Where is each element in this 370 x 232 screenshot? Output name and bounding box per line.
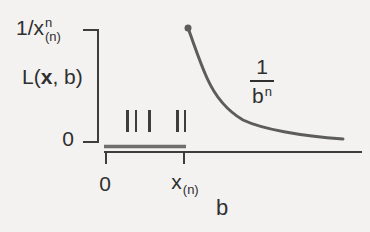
- x-axis-zero-label: 0: [93, 173, 117, 195]
- data-tick-mark: [148, 110, 151, 132]
- x-axis-title: b: [208, 196, 236, 219]
- fraction-numerator: 1: [250, 55, 274, 82]
- curve-annotation: 1 bn: [240, 55, 284, 108]
- x-axis-xn-label: x(n): [162, 171, 208, 197]
- fraction-den-sup: n: [265, 84, 272, 99]
- data-tick-mark: [126, 110, 129, 132]
- y-axis-max-sup: n: [45, 16, 52, 30]
- fraction-denominator: bn: [252, 82, 272, 108]
- xn-base: x: [171, 170, 182, 193]
- y-axis-max-base: 1/x: [16, 16, 44, 39]
- y-axis-zero-label: 0: [50, 128, 74, 150]
- y-axis-max-supsub: n(n): [45, 16, 61, 43]
- data-tick-mark: [135, 110, 138, 132]
- function-label-post: , b): [52, 65, 82, 88]
- fraction-den-base: b: [252, 84, 264, 107]
- y-axis-max-label: 1/xn(n): [16, 16, 61, 43]
- y-axis-max-sub: (n): [45, 30, 61, 44]
- figure-canvas: 1/xn(n) L(x, b) 0 0 x(n) b 1 bn: [0, 0, 370, 232]
- function-label-arg: x: [41, 65, 53, 88]
- data-tick-mark: [176, 110, 179, 132]
- function-label-pre: L(: [22, 65, 41, 88]
- y-axis-title: L(x, b): [22, 66, 83, 88]
- xn-sub: (n): [183, 182, 199, 197]
- data-tick-mark: [184, 110, 187, 132]
